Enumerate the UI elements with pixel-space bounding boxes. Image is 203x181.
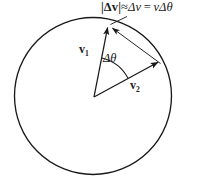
vector-v1-label: v1 [79,43,89,57]
v2-subscript: 2 [136,85,140,94]
approx-sign: ≈ [121,0,128,14]
vector-v2 [94,62,158,97]
figure-root: |Δv|≈Δv = vΔθ v1 v2 Δθ [0,0,203,181]
circular-path [15,18,172,175]
velocity-change-diagram [0,0,203,181]
delta-theta-symbol: Δθ [159,0,173,14]
equals-sign: = [144,0,151,14]
delta-theta-label: Δθ [103,52,116,65]
delta-bold-symbol: Δ [104,0,112,14]
v1-subscript: 1 [85,49,89,58]
delta-v-equation-label: |Δv|≈Δv = vΔθ [101,1,173,14]
vector-v2-label: v2 [130,79,140,93]
v-italic-symbol: v [135,0,141,14]
